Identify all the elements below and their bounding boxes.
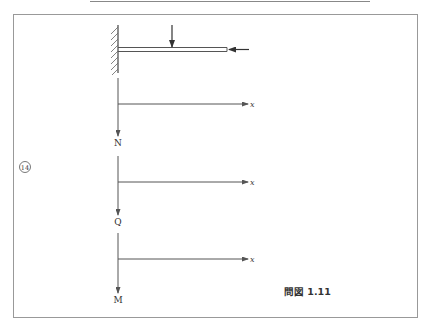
cantilever-beam — [118, 48, 227, 52]
figure-frame — [14, 15, 418, 318]
diagram-label-m: M — [113, 295, 122, 305]
fixed-wall-icon — [111, 25, 118, 75]
x-axis-label: x — [250, 255, 255, 264]
problem-number: 14 — [20, 162, 31, 173]
axial-force-diagram: x N — [114, 78, 255, 148]
x-axis-label: x — [250, 100, 255, 109]
bending-moment-diagram: x M — [113, 233, 255, 305]
x-axis-label: x — [250, 178, 255, 187]
shear-force-diagram: x Q — [114, 156, 255, 227]
figure-canvas: 14 x N x Q x M 問図 1.11 — [0, 0, 430, 333]
diagram-label-q: Q — [114, 217, 121, 227]
diagram-label-n: N — [114, 138, 122, 148]
svg-text:14: 14 — [21, 164, 29, 172]
figure-caption: 問図 1.11 — [284, 286, 331, 297]
